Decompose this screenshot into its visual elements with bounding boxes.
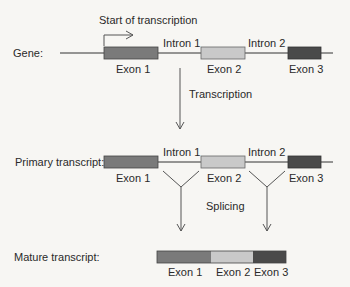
gene-exon-2 (201, 47, 245, 59)
gene-intron-2-label: Intron 2 (248, 37, 285, 49)
primary-exon-1 (104, 156, 158, 168)
gene-splicing-diagram: Start of transcription Gene: Intron 1 In… (0, 0, 350, 287)
gene-exon-1 (104, 47, 158, 59)
mature-exon-3 (253, 251, 286, 263)
primary-exon-2 (201, 156, 245, 168)
primary-transcript-row-label: Primary transcript: (15, 156, 104, 168)
primary-exon-2-label: Exon 2 (207, 172, 241, 184)
gene-intron-1-label: Intron 1 (163, 37, 200, 49)
splice-intron-2-icon (249, 171, 285, 187)
mature-exon-1-label: Exon 1 (168, 266, 202, 278)
start-arrow-icon (104, 35, 133, 46)
gene-exon-1-label: Exon 1 (116, 63, 150, 75)
mature-exon-2 (211, 251, 253, 263)
gene-exon-2-label: Exon 2 (207, 63, 241, 75)
splice-intron-1-icon (163, 171, 199, 187)
primary-intron-2-label: Intron 2 (248, 146, 285, 158)
transcription-label: Transcription (189, 88, 252, 100)
start-of-transcription-label: Start of transcription (99, 14, 197, 26)
gene-row-label: Gene: (13, 47, 43, 59)
gene-exon-3 (288, 47, 321, 59)
mature-exon-1 (157, 251, 211, 263)
splicing-label: Splicing (206, 200, 245, 212)
mature-transcript-row-label: Mature transcript: (14, 251, 100, 263)
primary-exon-3 (288, 156, 321, 168)
primary-exon-1-label: Exon 1 (116, 172, 150, 184)
mature-exon-2-label: Exon 2 (216, 266, 250, 278)
primary-intron-1-label: Intron 1 (163, 146, 200, 158)
primary-exon-3-label: Exon 3 (289, 172, 323, 184)
gene-exon-3-label: Exon 3 (289, 63, 323, 75)
mature-exon-3-label: Exon 3 (254, 266, 288, 278)
